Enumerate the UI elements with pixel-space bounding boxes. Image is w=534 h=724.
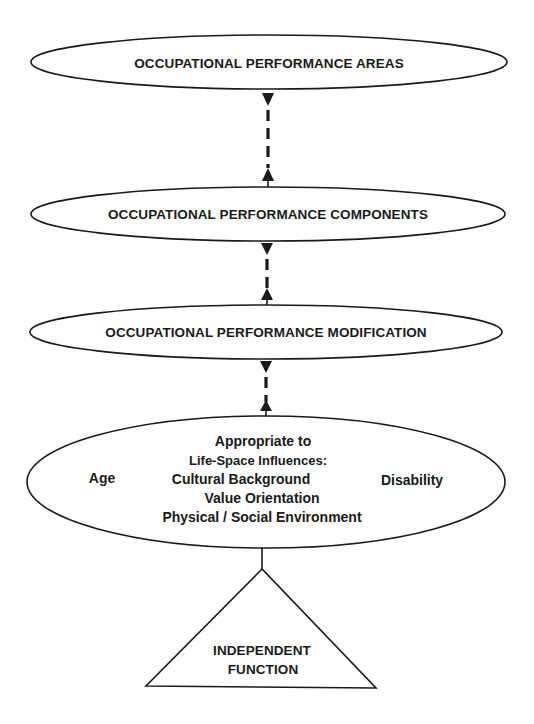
bidirectional-dashed-arrow (260, 361, 272, 417)
triangle-label-line-1: INDEPENDENT (213, 643, 312, 658)
node-label: OCCUPATIONAL PERFORMANCE COMPONENTS (108, 207, 428, 222)
node-life-space-influences: Appropriate to Life-Space Influences: Ag… (27, 416, 505, 548)
influence-cultural-background: Cultural Background (172, 471, 310, 487)
arrow-down-icon (261, 243, 273, 255)
node-label: OCCUPATIONAL PERFORMANCE MODIFICATION (105, 325, 426, 340)
arrow-up-icon (260, 400, 272, 411)
bidirectional-dashed-arrow (261, 243, 273, 306)
influence-age: Age (89, 470, 116, 486)
node-header: Appropriate to (215, 433, 311, 449)
node-occupational-performance-areas: OCCUPATIONAL PERFORMANCE AREAS (31, 35, 507, 89)
influence-value-orientation: Value Orientation (204, 490, 319, 506)
node-occupational-performance-modification: OCCUPATIONAL PERFORMANCE MODIFICATION (30, 305, 502, 359)
node-independent-function: INDEPENDENT FUNCTION (146, 569, 376, 688)
arrow-down-icon (260, 361, 272, 373)
influence-disability: Disability (381, 472, 443, 488)
diagram-canvas: OCCUPATIONAL PERFORMANCE AREAS OCCUPATIO… (0, 0, 534, 724)
influence-physical-social-environment: Physical / Social Environment (162, 509, 362, 525)
triangle-label-line-2: FUNCTION (228, 662, 299, 677)
bidirectional-dashed-arrow (262, 93, 274, 188)
arrow-down-icon (262, 93, 274, 106)
node-subheader: Life-Space Influences: (189, 453, 327, 468)
arrow-up-icon (261, 288, 273, 300)
node-occupational-performance-components: OCCUPATIONAL PERFORMANCE COMPONENTS (31, 187, 505, 241)
node-label: OCCUPATIONAL PERFORMANCE AREAS (134, 56, 404, 71)
arrow-up-icon (262, 168, 274, 181)
